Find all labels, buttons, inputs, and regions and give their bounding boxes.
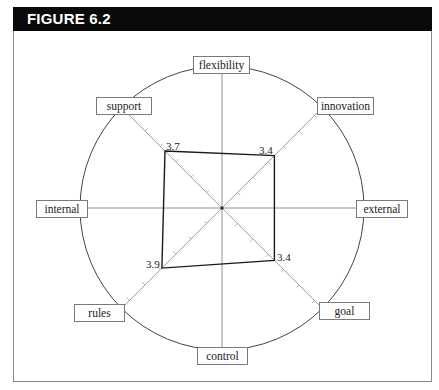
axis-label-goal: goal [319,302,370,320]
axis-label-flexibility: flexibility [193,56,250,74]
value-label-innovation: 3.4 [259,144,273,156]
axis-label-external: external [356,200,408,218]
value-label-rules: 3.9 [146,258,160,270]
center-point [220,206,223,209]
axis-label-internal: internal [36,200,88,218]
axis-label-control: control [197,347,248,365]
axis-label-rules: rules [74,304,125,322]
data-polygon [162,151,275,268]
axis-label-support: support [96,97,152,115]
value-label-goal: 3.4 [277,251,291,263]
axis-label-innovation: innovation [317,97,374,115]
value-label-support: 3.7 [166,140,180,152]
